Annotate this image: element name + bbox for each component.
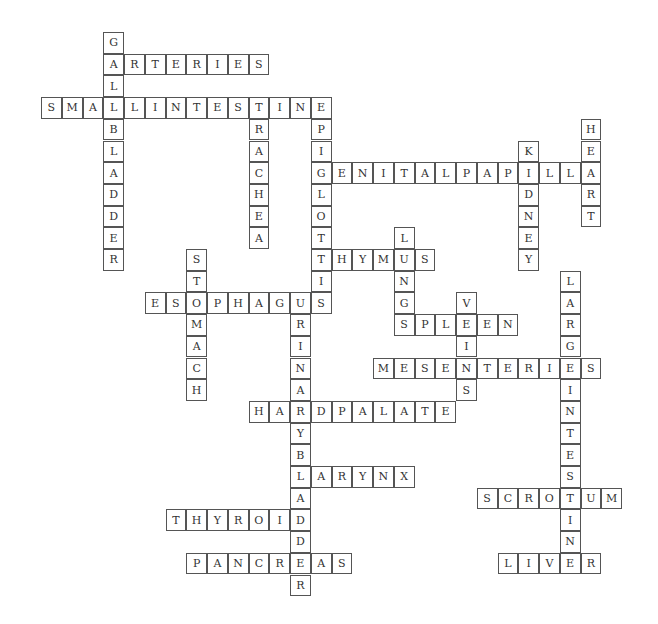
crossword-cell[interactable]: Y (352, 249, 373, 271)
crossword-cell[interactable]: P (456, 162, 477, 184)
crossword-cell[interactable]: D (103, 184, 124, 206)
crossword-cell[interactable]: S (477, 488, 498, 510)
crossword-cell[interactable]: O (311, 206, 332, 228)
crossword-cell[interactable]: N (518, 206, 539, 228)
crossword-cell[interactable]: S (186, 249, 207, 271)
crossword-cell[interactable]: L (124, 97, 145, 119)
crossword-cell[interactable]: A (103, 54, 124, 76)
crossword-cell[interactable]: R (103, 249, 124, 271)
crossword-cell[interactable]: H (228, 292, 249, 314)
crossword-cell[interactable]: A (249, 227, 270, 249)
crossword-cell[interactable]: N (290, 358, 311, 380)
crossword-cell[interactable]: G (269, 292, 290, 314)
crossword-cell[interactable]: R (124, 54, 145, 76)
crossword-cell[interactable]: A (581, 162, 602, 184)
crossword-cell[interactable]: R (290, 575, 311, 597)
crossword-cell[interactable]: T (311, 227, 332, 249)
crossword-cell[interactable]: E (290, 553, 311, 575)
crossword-cell[interactable]: H (249, 184, 270, 206)
crossword-cell[interactable]: I (456, 336, 477, 358)
crossword-cell[interactable]: R (332, 466, 353, 488)
crossword-cell[interactable]: S (311, 292, 332, 314)
crossword-cell[interactable]: S (166, 292, 187, 314)
crossword-cell[interactable]: K (518, 141, 539, 163)
crossword-cell[interactable]: M (186, 314, 207, 336)
crossword-cell[interactable]: I (518, 162, 539, 184)
crossword-cell[interactable]: I (311, 141, 332, 163)
crossword-cell[interactable]: S (415, 249, 436, 271)
crossword-cell[interactable]: E (166, 54, 187, 76)
crossword-cell[interactable]: L (539, 162, 560, 184)
crossword-cell[interactable]: I (311, 271, 332, 293)
crossword-cell[interactable]: T (311, 249, 332, 271)
crossword-cell[interactable]: S (581, 358, 602, 380)
crossword-cell[interactable]: P (415, 314, 436, 336)
crossword-cell[interactable]: E (145, 292, 166, 314)
crossword-cell[interactable]: A (103, 162, 124, 184)
crossword-cell[interactable]: P (207, 292, 228, 314)
crossword-cell[interactable]: Y (290, 423, 311, 445)
crossword-cell[interactable]: H (332, 249, 353, 271)
crossword-cell[interactable]: N (290, 97, 311, 119)
crossword-cell[interactable]: T (186, 97, 207, 119)
crossword-cell[interactable]: L (311, 184, 332, 206)
crossword-cell[interactable]: E (332, 162, 353, 184)
crossword-cell[interactable]: E (435, 401, 456, 423)
crossword-cell[interactable]: L (560, 162, 581, 184)
crossword-cell[interactable]: G (560, 336, 581, 358)
crossword-cell[interactable]: R (186, 54, 207, 76)
crossword-cell[interactable]: A (249, 292, 270, 314)
crossword-cell[interactable]: S (41, 97, 62, 119)
crossword-cell[interactable]: R (269, 553, 290, 575)
crossword-cell[interactable]: E (311, 97, 332, 119)
crossword-cell[interactable]: H (186, 379, 207, 401)
crossword-cell[interactable]: Y (352, 466, 373, 488)
crossword-cell[interactable]: M (373, 358, 394, 380)
crossword-cell[interactable]: U (581, 488, 602, 510)
crossword-cell[interactable]: E (581, 141, 602, 163)
crossword-cell[interactable]: A (415, 162, 436, 184)
crossword-cell[interactable]: I (539, 358, 560, 380)
crossword-cell[interactable]: A (290, 488, 311, 510)
crossword-cell[interactable]: G (103, 32, 124, 54)
crossword-cell[interactable]: O (249, 509, 270, 531)
crossword-cell[interactable]: L (103, 97, 124, 119)
crossword-cell[interactable]: N (166, 97, 187, 119)
crossword-cell[interactable]: A (352, 401, 373, 423)
crossword-cell[interactable]: Y (207, 509, 228, 531)
crossword-cell[interactable]: D (290, 531, 311, 553)
crossword-cell[interactable]: E (435, 358, 456, 380)
crossword-cell[interactable]: R (518, 488, 539, 510)
crossword-cell[interactable]: C (249, 162, 270, 184)
crossword-cell[interactable]: V (456, 292, 477, 314)
crossword-cell[interactable]: A (560, 292, 581, 314)
crossword-cell[interactable]: L (435, 314, 456, 336)
crossword-cell[interactable]: S (228, 97, 249, 119)
crossword-cell[interactable]: S (394, 314, 415, 336)
crossword-cell[interactable]: E (228, 54, 249, 76)
crossword-cell[interactable]: E (103, 227, 124, 249)
crossword-cell[interactable]: A (83, 97, 104, 119)
crossword-cell[interactable]: P (332, 401, 353, 423)
crossword-cell[interactable]: R (290, 314, 311, 336)
crossword-cell[interactable]: L (394, 227, 415, 249)
crossword-cell[interactable]: D (103, 206, 124, 228)
crossword-cell[interactable]: R (290, 401, 311, 423)
crossword-cell[interactable]: T (560, 488, 581, 510)
crossword-cell[interactable]: I (560, 379, 581, 401)
crossword-cell[interactable]: L (290, 466, 311, 488)
crossword-cell[interactable]: E (249, 206, 270, 228)
crossword-cell[interactable]: A (186, 336, 207, 358)
crossword-cell[interactable]: C (186, 358, 207, 380)
crossword-cell[interactable]: I (269, 509, 290, 531)
crossword-cell[interactable]: S (249, 54, 270, 76)
crossword-cell[interactable]: U (394, 249, 415, 271)
crossword-cell[interactable]: T (166, 509, 187, 531)
crossword-cell[interactable]: I (560, 509, 581, 531)
crossword-cell[interactable]: N (560, 401, 581, 423)
crossword-cell[interactable]: T (249, 97, 270, 119)
crossword-cell[interactable]: S (560, 466, 581, 488)
crossword-cell[interactable]: R (228, 509, 249, 531)
crossword-cell[interactable]: L (373, 401, 394, 423)
crossword-cell[interactable]: I (145, 97, 166, 119)
